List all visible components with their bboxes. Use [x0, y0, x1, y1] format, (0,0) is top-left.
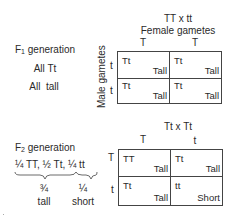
f1-cell-genotype: Tt — [122, 80, 130, 91]
f1-generation-word: generation — [25, 44, 75, 55]
f1-cross-title: TT x tt — [164, 14, 192, 24]
f1-summary-genotype: All Tt — [34, 64, 57, 74]
f1-column-gamete-2: T — [192, 38, 198, 48]
f2-tall-label: tall — [38, 197, 51, 207]
f1-cell-genotype: Tt — [174, 80, 182, 91]
f1-cell-phenotype: Tall — [205, 90, 219, 101]
f1-generation-heading: F1 generation — [15, 45, 75, 55]
f1-cell-phenotype: Tall — [153, 90, 167, 101]
f2-cell-genotype: Tt — [175, 153, 183, 164]
f2-column-gamete-1: T — [140, 135, 146, 145]
f1-punnett-square: Tt Tall Tt Tall Tt Tall Tt Tall — [117, 51, 222, 104]
f2-generation-heading: F2 generation — [15, 143, 75, 153]
f2-cross-title: Tt x Tt — [164, 122, 192, 132]
f1-summary-phenotype: All tall — [29, 82, 58, 92]
f1-cell-phenotype: Tall — [153, 65, 167, 76]
f2-cell-r1c2: Tt Tall — [171, 150, 222, 176]
f1-male-gametes-label: Male gametes — [96, 45, 107, 108]
f2-cell-r1c1: TT Tall — [119, 150, 170, 176]
f2-cell-genotype: TT — [123, 153, 135, 164]
f2-cell-phenotype: Tall — [154, 192, 168, 203]
f2-row-gamete-1: T — [108, 153, 114, 163]
f2-cell-genotype: Tt — [123, 180, 131, 191]
f2-punnett-square: TT Tall Tt Tall Tt Tall tt Short — [118, 149, 223, 206]
f2-short-label: short — [72, 197, 94, 207]
f2-genotype-ratio: ¼ TT, ½ Tt, ¼ tt — [15, 160, 85, 170]
f1-cell-r2c1: Tt Tall — [118, 79, 169, 103]
f2-cell-r2c1: Tt Tall — [119, 177, 170, 205]
curly-brace-icon — [14, 171, 98, 181]
f2-cell-phenotype: Short — [197, 192, 220, 203]
f2-column-gamete-2: t — [194, 136, 197, 146]
f1-column-gamete-1: T — [140, 38, 146, 48]
f2-tall-fraction: ¾ — [40, 184, 48, 194]
scan-speck — [3, 214, 4, 215]
f1-cell-genotype: Tt — [122, 55, 130, 66]
f1-cell-r2c2: Tt Tall — [170, 79, 221, 103]
f2-cell-phenotype: Tall — [206, 163, 220, 174]
f1-cell-r1c1: Tt Tall — [118, 52, 169, 78]
f2-cell-phenotype: Tall — [154, 163, 168, 174]
f2-generation-word: generation — [25, 142, 75, 153]
f1-female-gametes-label: Female gametes — [141, 26, 215, 36]
f2-cell-r2c2: tt Short — [171, 177, 222, 205]
f1-cell-phenotype: Tall — [205, 65, 219, 76]
f1-cell-r1c2: Tt Tall — [170, 52, 221, 78]
f2-short-fraction: ¼ — [79, 184, 87, 194]
f2-cell-genotype: tt — [175, 180, 180, 191]
f1-row-gamete-1: t — [110, 61, 113, 71]
f2-row-gamete-2: t — [111, 185, 114, 195]
f1-cell-genotype: Tt — [174, 55, 182, 66]
f1-row-gamete-2: t — [110, 86, 113, 96]
